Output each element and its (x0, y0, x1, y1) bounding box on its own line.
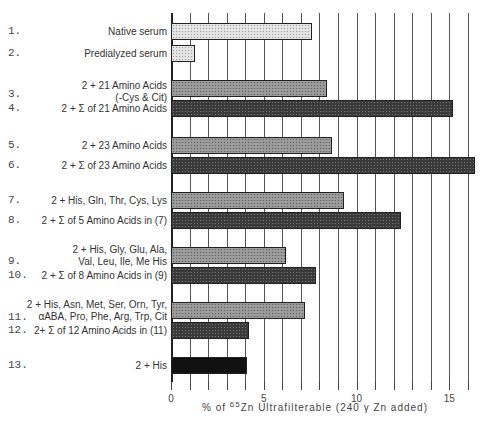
category-label: 2 + 23 Amino Acids (82, 140, 167, 152)
gridline (449, 13, 450, 382)
category-label: αABA, Pro, Phe, Arg, Trp, Cit (38, 311, 167, 323)
category-label: 2 + His (136, 360, 167, 372)
x-tick (282, 382, 283, 390)
category-label: 2 + His, Gly, Glu, Ala, (72, 244, 167, 256)
x-tick (227, 382, 228, 390)
x-tick (412, 382, 413, 390)
bar (171, 247, 286, 264)
category-label: 2 + 21 Amino Acids (82, 80, 167, 92)
category-label: Native serum (108, 26, 167, 38)
category-label: 2 + His, Gln, Thr, Cys, Lys (51, 195, 167, 207)
bar (171, 192, 344, 209)
x-tick (338, 382, 339, 390)
row-number: 2. (8, 47, 21, 59)
x-tick (319, 382, 320, 390)
bar (171, 100, 453, 117)
bar (171, 137, 332, 154)
x-tick (375, 382, 376, 390)
gridline (357, 13, 358, 382)
gridline (431, 13, 432, 382)
x-tick (394, 382, 395, 390)
category-label: 2 + His, Asn, Met, Ser, Orn, Tyr, (27, 299, 167, 311)
row-number: 8. (8, 214, 21, 226)
bar (171, 80, 327, 97)
row-number: 3. (8, 88, 21, 100)
x-tick (301, 382, 302, 390)
x-tick (449, 382, 450, 390)
category-label: Val, Leu, Ile, Me His (78, 256, 167, 268)
row-number: 7. (8, 194, 21, 206)
bar (171, 302, 305, 319)
x-tick (357, 382, 358, 390)
bar (171, 322, 249, 339)
gridline (468, 13, 469, 382)
row-number: 1. (8, 25, 21, 37)
category-label: 2 + Σ of 23 Amino Acids (62, 160, 167, 172)
row-number: 13. (8, 359, 28, 371)
row-number: 4. (8, 102, 21, 114)
row-number: 9. (8, 255, 21, 267)
category-label: 2 + Σ of 5 Amino Acids in (7) (42, 215, 167, 227)
x-tick (245, 382, 246, 390)
row-number: 6. (8, 159, 21, 171)
row-number: 5. (8, 139, 21, 151)
x-tick (208, 382, 209, 390)
x-tick-label: 0 (168, 393, 174, 404)
x-tick (431, 382, 432, 390)
row-number: 11. (8, 311, 28, 323)
x-axis-title: % of 65Zn Ultrafilterable (240 γ Zn adde… (175, 400, 455, 413)
category-label: 2+ Σ of 12 Amino Acids in (11) (34, 325, 167, 337)
bar (171, 357, 247, 374)
row-number: 12. (8, 324, 28, 336)
x-tick (171, 382, 172, 390)
bar (171, 157, 475, 174)
gridline (412, 13, 413, 382)
bar (171, 267, 316, 284)
category-label: Predialyzed serum (84, 48, 167, 60)
category-label: 2 + Σ of 21 Amino Acids (62, 103, 167, 115)
bar (171, 23, 312, 40)
x-tick (190, 382, 191, 390)
category-label: 2 + Σ of 8 Amino Acids in (9) (42, 270, 167, 282)
row-number: 10. (8, 269, 28, 281)
x-tick (468, 382, 469, 390)
bar-chart: 1.Native serum2.Predialyzed serum3.2 + 2… (0, 0, 483, 422)
gridline (375, 13, 376, 382)
bar (171, 45, 195, 62)
bar (171, 212, 401, 229)
gridline (394, 13, 395, 382)
x-tick (264, 382, 265, 390)
